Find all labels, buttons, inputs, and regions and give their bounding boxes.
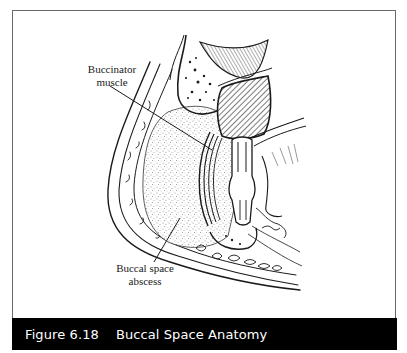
- oral-tissue: [248, 118, 306, 266]
- label-buccinator-muscle: Buccinator muscle: [76, 63, 148, 89]
- figure-caption-bar: Figure 6.18 Buccal Space Anatomy: [12, 318, 397, 350]
- figure-number: Figure 6.18: [25, 327, 99, 342]
- figure-title: Buccal Space Anatomy: [116, 327, 267, 342]
- maxillary-sinus: [218, 76, 271, 139]
- buccal-space-illustration: [0, 0, 407, 318]
- label-buccal-space-abscess: Buccal space abscess: [104, 262, 186, 288]
